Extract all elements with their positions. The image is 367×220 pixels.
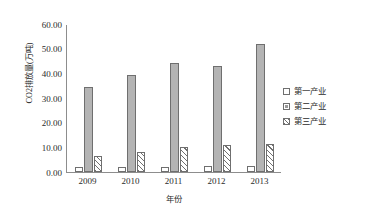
bar-group [75,25,102,172]
legend-item: 第二产业 [283,99,363,114]
bar-chart: CO2排放量(万吨) 60.0050.0040.0030.0020.0010.0… [0,0,367,220]
x-axis-tick-labels: 20092010201120122013 [66,176,281,190]
x-axis-tick-label: 2012 [195,176,238,186]
bar-series2 [213,66,221,172]
bar-group [118,25,145,172]
bar-group [204,25,231,172]
x-axis-tick-label: 2009 [66,176,109,186]
legend: 第一产业第二产业第三产业 [283,84,363,129]
bar-series3 [266,144,274,172]
bar-series3 [180,147,188,172]
bar-series1 [75,167,83,172]
y-axis-tick-labels: 60.0050.0040.0030.0020.0010.000.00 [16,0,62,220]
y-axis-tick-label: 50.00 [16,45,62,54]
x-axis-title: 年份 [66,192,281,204]
bar-series3 [137,152,145,172]
y-axis-tick-label: 40.00 [16,70,62,79]
plot-area [66,25,281,173]
bar-series2 [84,87,92,172]
bar-series3 [223,145,231,172]
legend-item: 第一产业 [283,84,363,99]
legend-label: 第一产业 [294,87,326,96]
y-axis-tick-label: 60.00 [16,21,62,30]
y-axis-tick-label: 0.00 [16,169,62,178]
legend-label: 第二产业 [294,102,326,111]
legend-item: 第三产业 [283,114,363,129]
bar-series2 [170,63,178,172]
bar-series2 [256,44,264,172]
bar-group [247,25,274,172]
bar-series1 [161,167,169,172]
bar-series2 [127,75,135,172]
x-axis-tick-label: 2011 [152,176,195,186]
empty-square-swatch-icon [283,88,290,95]
y-axis-tick-label: 30.00 [16,95,62,104]
bars-container [67,25,281,172]
bar-series1 [118,167,126,172]
y-axis-tick-label: 20.00 [16,119,62,128]
y-axis-tick-label: 10.00 [16,144,62,153]
x-axis-tick-label: 2013 [238,176,281,186]
filled-square-swatch-icon [283,103,290,110]
bar-series1 [247,166,255,172]
legend-label: 第三产业 [294,117,326,126]
hatched-square-swatch-icon [283,118,290,125]
bar-series3 [94,156,102,172]
bar-group [161,25,188,172]
bar-series1 [204,166,212,172]
x-axis-tick-label: 2010 [109,176,152,186]
